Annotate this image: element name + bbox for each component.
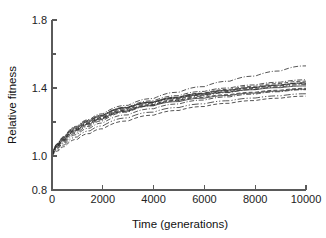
figure-container: 0.81.01.41.80200040006000800010000 Time … <box>0 0 326 238</box>
line-chart: 0.81.01.41.80200040006000800010000 Time … <box>0 0 326 238</box>
y-axis-title: Relative fitness <box>6 66 18 144</box>
x-tick-label-8000: 8000 <box>243 193 267 205</box>
axis-labels-layer: 0.81.01.41.80200040006000800010000 <box>32 14 322 205</box>
y-tick-label-0.8: 0.8 <box>32 184 47 196</box>
series-line-population-1 <box>52 66 306 156</box>
x-tick-label-4000: 4000 <box>141 193 165 205</box>
axis-lines <box>52 20 306 190</box>
x-tick-label-6000: 6000 <box>192 193 216 205</box>
series-line-population-4 <box>52 83 306 156</box>
series-line-population-5 <box>52 83 306 156</box>
x-axis-title: Time (generations) <box>132 218 228 230</box>
x-tick-label-2000: 2000 <box>91 193 115 205</box>
y-tick-label-1.4: 1.4 <box>32 82 47 94</box>
series-line-population-6 <box>52 84 306 156</box>
x-tick-label-0: 0 <box>49 193 55 205</box>
series-layer <box>52 66 306 156</box>
y-tick-label-1: 1.0 <box>32 150 47 162</box>
x-tick-label-10000: 10000 <box>291 193 322 205</box>
y-tick-label-1.8: 1.8 <box>32 14 47 26</box>
axes-layer <box>52 20 306 190</box>
